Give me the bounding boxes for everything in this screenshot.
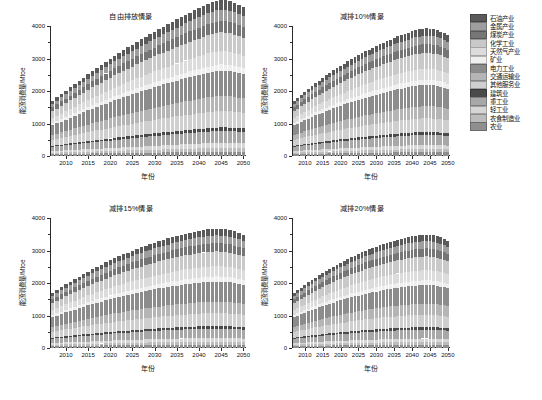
bar-segment bbox=[193, 232, 196, 239]
bar-segment bbox=[314, 335, 317, 336]
bar-segment bbox=[436, 81, 439, 86]
bar-segment bbox=[224, 277, 227, 282]
stacked-bar bbox=[389, 242, 392, 348]
bar-segment bbox=[411, 107, 414, 119]
bar-segment bbox=[202, 277, 205, 282]
bar-segment bbox=[206, 132, 209, 144]
bar-segment bbox=[393, 261, 396, 274]
bar-segment bbox=[436, 315, 439, 327]
bar-segment bbox=[233, 3, 236, 13]
bar-segment bbox=[361, 116, 364, 126]
bar-segment bbox=[175, 281, 178, 286]
legend-item: 农业 bbox=[470, 122, 542, 130]
bar-segment bbox=[180, 45, 183, 62]
bar-segment bbox=[303, 346, 306, 348]
bar-segment bbox=[188, 327, 191, 330]
bar-segment bbox=[389, 262, 392, 275]
bar-segment bbox=[361, 345, 364, 348]
bar-segment bbox=[296, 105, 299, 109]
bar-segment bbox=[206, 277, 209, 282]
bar-segment bbox=[361, 85, 364, 94]
x-tick-label: 2040 bbox=[192, 160, 205, 166]
bar-segment bbox=[113, 68, 116, 75]
bar-segment bbox=[357, 74, 360, 86]
bar-segment bbox=[237, 54, 240, 67]
bar-segment bbox=[242, 327, 245, 330]
stacked-bar bbox=[242, 7, 245, 156]
bar-segment bbox=[193, 152, 196, 156]
bar-segment bbox=[157, 37, 160, 46]
stacked-bar bbox=[117, 256, 120, 348]
bar-segment bbox=[303, 118, 306, 121]
bar-segment bbox=[224, 302, 227, 313]
bar-segment bbox=[321, 152, 324, 154]
bar-segment bbox=[375, 318, 378, 329]
bar-segment bbox=[100, 341, 103, 344]
bar-segment bbox=[162, 283, 165, 288]
bar-segment bbox=[311, 114, 314, 117]
bar-segment bbox=[206, 97, 209, 112]
bar-segment bbox=[293, 315, 296, 317]
bar-segment bbox=[64, 329, 67, 336]
bar-segment bbox=[311, 280, 314, 284]
bar-segment bbox=[421, 327, 424, 330]
bar-segment bbox=[157, 107, 160, 119]
bar-segment bbox=[140, 54, 143, 62]
bar-segment bbox=[184, 144, 187, 149]
stacked-bar bbox=[314, 278, 317, 348]
bar-segment bbox=[162, 132, 165, 135]
bar-segment bbox=[122, 63, 125, 70]
bar-segment bbox=[411, 304, 414, 315]
bar-segment bbox=[224, 71, 227, 96]
bar-segment bbox=[219, 131, 222, 143]
bar-segment bbox=[78, 321, 81, 328]
bar-segment bbox=[140, 137, 143, 146]
bar-segment bbox=[86, 132, 89, 141]
bar-segment bbox=[314, 286, 317, 291]
bar-segment bbox=[443, 342, 446, 345]
bar-segment bbox=[175, 315, 178, 327]
bar-segment bbox=[60, 290, 63, 294]
bar-segment bbox=[100, 324, 103, 333]
bar-segment bbox=[339, 267, 342, 272]
bar-segment bbox=[51, 315, 54, 317]
bar-segment bbox=[100, 70, 103, 76]
bar-segment bbox=[303, 104, 306, 112]
bar-segment bbox=[242, 339, 245, 342]
bar-segment bbox=[407, 56, 410, 71]
bar-segment bbox=[86, 336, 89, 342]
bar-segment bbox=[82, 87, 85, 92]
bar-segment bbox=[78, 81, 81, 85]
bar-segment bbox=[314, 342, 317, 344]
bar-segment bbox=[407, 315, 410, 327]
bar-segment bbox=[117, 53, 120, 59]
bar-segment bbox=[407, 243, 410, 250]
bar-segment bbox=[242, 16, 245, 27]
x-tick-label: 2040 bbox=[405, 160, 418, 166]
legend-item: 石油产业 bbox=[470, 14, 542, 22]
bar-segment bbox=[166, 342, 169, 345]
x-tick bbox=[358, 156, 359, 159]
bar-segment bbox=[95, 277, 98, 283]
bar-segment bbox=[51, 310, 54, 315]
bar-segment bbox=[171, 149, 174, 152]
bar-segment bbox=[407, 251, 410, 259]
bar-segment bbox=[153, 150, 156, 153]
legend-swatch bbox=[470, 22, 487, 31]
bar-segment bbox=[343, 323, 346, 332]
bar-segment bbox=[303, 144, 306, 145]
bar-segment bbox=[443, 33, 446, 40]
bar-segment bbox=[73, 292, 76, 300]
bar-segment bbox=[314, 106, 317, 112]
bar-segment bbox=[339, 153, 342, 156]
bar-segment bbox=[389, 40, 392, 46]
bar-segment bbox=[175, 257, 178, 271]
bar-segment bbox=[343, 314, 346, 322]
bar-segment bbox=[206, 345, 209, 349]
bar-segment bbox=[219, 302, 222, 314]
bar-segment bbox=[153, 243, 156, 249]
bar-segment bbox=[113, 56, 116, 62]
bar-segment bbox=[371, 54, 374, 61]
bar-segment bbox=[318, 90, 321, 95]
bar-segment bbox=[126, 343, 129, 345]
